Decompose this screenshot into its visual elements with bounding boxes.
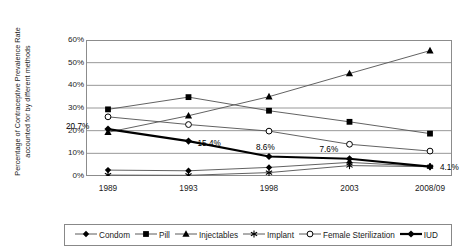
data-point bbox=[347, 141, 353, 147]
data-point bbox=[347, 119, 353, 125]
legend-label: Pill bbox=[159, 231, 170, 240]
asterisk-icon bbox=[243, 229, 265, 241]
data-point bbox=[307, 231, 313, 237]
x-tick-label: 2003 bbox=[340, 183, 358, 193]
y-tick-label: 10% bbox=[68, 149, 84, 157]
y-axis-title-line1: Percentage of Contraceptive Prevalence R… bbox=[13, 17, 23, 187]
data-point bbox=[186, 122, 192, 128]
data-point bbox=[346, 155, 353, 162]
y-axis-ticks: 0%10%20%30%40%50%60% bbox=[40, 33, 84, 183]
data-label: 4.1% bbox=[440, 163, 459, 172]
data-point bbox=[407, 230, 414, 237]
legend-label: Injectables bbox=[199, 231, 238, 240]
data-point bbox=[426, 163, 433, 170]
legend-item-pill[interactable]: Pill bbox=[134, 229, 174, 241]
legend-label: Implant bbox=[267, 231, 294, 240]
data-label: 7.6% bbox=[320, 145, 339, 154]
triangle-icon bbox=[175, 229, 197, 241]
data-point bbox=[427, 131, 433, 137]
data-point bbox=[266, 128, 272, 134]
legend-item-injectables[interactable]: Injectables bbox=[174, 229, 242, 241]
x-tick-label: 1993 bbox=[179, 183, 197, 193]
chart-legend: CondomPillInjectablesImplantFemale Steri… bbox=[64, 224, 452, 246]
data-point bbox=[265, 153, 272, 160]
x-tick-label: 1998 bbox=[260, 183, 278, 193]
data-point bbox=[143, 231, 149, 237]
plot-area bbox=[86, 40, 452, 176]
diamond-icon bbox=[75, 229, 97, 241]
legend-item-implant[interactable]: Implant bbox=[242, 229, 298, 241]
y-tick-label: 40% bbox=[68, 81, 84, 89]
y-axis-title-line2: accounted for by different methods bbox=[22, 17, 32, 187]
data-label: 20.7% bbox=[66, 122, 89, 131]
y-tick-label: 30% bbox=[68, 104, 84, 112]
chart-figure: Percentage of Contraceptive Prevalence R… bbox=[0, 0, 464, 251]
data-point bbox=[266, 108, 272, 114]
legend-item-condom[interactable]: Condom bbox=[74, 229, 134, 241]
legend-label: IUD bbox=[424, 231, 438, 240]
data-point bbox=[427, 148, 433, 154]
data-point bbox=[186, 94, 192, 100]
legend-label: Female Sterilization bbox=[323, 231, 395, 240]
y-tick-label: 60% bbox=[68, 36, 84, 44]
bold-diamond-icon bbox=[400, 229, 422, 241]
x-tick-label: 1989 bbox=[99, 183, 117, 193]
legend-label: Condom bbox=[99, 231, 130, 240]
chart-canvas bbox=[86, 40, 452, 176]
legend-item-iud[interactable]: IUD bbox=[399, 229, 442, 241]
square-icon bbox=[135, 229, 157, 241]
y-axis-title: Percentage of Contraceptive Prevalence R… bbox=[13, 17, 32, 187]
y-tick-label: 0% bbox=[72, 172, 84, 180]
data-point bbox=[105, 114, 111, 120]
y-tick-label: 50% bbox=[68, 59, 84, 67]
x-tick-label: 2008/09 bbox=[415, 183, 445, 193]
x-axis-ticks: 19891993199820032008/09 bbox=[86, 180, 452, 196]
data-point bbox=[83, 231, 89, 237]
data-point bbox=[185, 137, 192, 144]
data-label: 8.6% bbox=[256, 143, 275, 152]
data-label: 15.4% bbox=[198, 139, 221, 148]
open-circle-icon bbox=[299, 229, 321, 241]
data-point bbox=[105, 106, 111, 112]
legend-item-female-sterilization[interactable]: Female Sterilization bbox=[298, 229, 399, 241]
data-point bbox=[426, 47, 433, 54]
